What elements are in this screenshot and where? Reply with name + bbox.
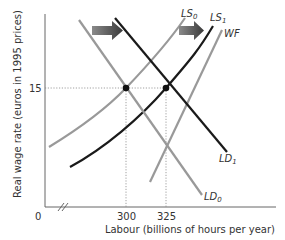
wf-label: WF <box>224 28 240 39</box>
y-tick-15: 15 <box>29 83 42 94</box>
ls0-curve <box>49 18 185 147</box>
ld1-label: LD1 <box>219 153 237 166</box>
ls1-label: LS1 <box>210 12 226 25</box>
x-axis-title: Labour (billions of hours per year) <box>105 224 275 235</box>
equilibrium-point-325 <box>163 85 170 92</box>
supply-shift-arrow-icon <box>179 21 204 40</box>
ld0-label: LD0 <box>204 191 222 204</box>
equilibrium-point-300 <box>123 85 130 92</box>
x-tick-300: 300 <box>117 211 136 222</box>
y-axis-title: Real wage rate (euros in 1995 prices) <box>12 10 23 198</box>
origin-label: 0 <box>35 211 41 222</box>
wf-curve <box>150 30 222 182</box>
ld0-curve <box>79 20 202 195</box>
labour-market-chart: LS0 LS1 WF LD1 LD0 15 0 300 325 Labour (… <box>0 0 285 240</box>
x-tick-325: 325 <box>157 211 176 222</box>
demand-shift-arrow-icon <box>92 21 123 40</box>
